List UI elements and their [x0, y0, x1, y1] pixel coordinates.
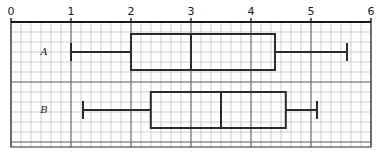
boxplot-figure: 0123456 AB [0, 0, 379, 156]
boxplot-canvas: 0123456 AB [0, 0, 379, 156]
series-label-b: B [39, 104, 47, 115]
axis-tick-label-2: 2 [128, 5, 135, 18]
box-plots [71, 34, 347, 128]
axis-tick-label-0: 0 [8, 5, 15, 18]
axis-tick-label-3: 3 [188, 5, 195, 18]
axis-ruler [11, 18, 371, 22]
axis-tick-label-6: 6 [368, 5, 375, 18]
axis-tick-label-5: 5 [308, 5, 315, 18]
axis-tick-label-4: 4 [248, 5, 255, 18]
box-plot-b [83, 92, 317, 128]
series-labels: AB [39, 46, 47, 115]
axis-tick-labels: 0123456 [8, 5, 375, 18]
series-label-a: A [39, 46, 47, 57]
axis-tick-label-1: 1 [68, 5, 75, 18]
